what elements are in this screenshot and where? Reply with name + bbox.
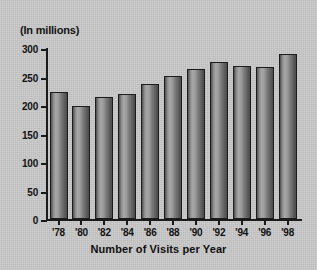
x-tick-label: '92 — [212, 227, 225, 238]
x-tick-mark — [241, 220, 243, 225]
x-axis-title: Number of Visits per Year — [0, 243, 317, 255]
bar-series: '78'80'82'84'86'88'90'92'94'96'98 — [48, 48, 300, 219]
y-tick-label: 0 — [33, 215, 38, 226]
y-tick-mark — [41, 220, 47, 222]
x-tick-label: '80 — [75, 227, 88, 238]
x-tick-label: '90 — [190, 227, 203, 238]
y-tick-mark — [41, 163, 47, 165]
x-tick-label: '98 — [281, 227, 294, 238]
y-tick-mark — [41, 49, 47, 51]
bar-y86 — [141, 84, 159, 219]
x-tick-mark — [172, 220, 174, 225]
bar-y80 — [72, 106, 90, 219]
x-tick-mark — [80, 220, 82, 225]
bar-y88 — [164, 76, 182, 219]
bar-y78 — [50, 92, 68, 219]
bar-y92 — [210, 62, 228, 219]
x-tick-label: '88 — [167, 227, 180, 238]
x-tick-label: '82 — [98, 227, 111, 238]
chart-page: (In millions) 050100150200250300 '78'80'… — [0, 0, 317, 270]
x-tick-mark — [218, 220, 220, 225]
bar-y98 — [279, 54, 297, 219]
x-tick-label: '86 — [144, 227, 157, 238]
x-tick-mark — [264, 220, 266, 225]
y-tick-mark — [41, 192, 47, 194]
y-tick-mark — [41, 78, 47, 80]
y-tick-mark — [41, 106, 47, 108]
x-tick-mark — [195, 220, 197, 225]
chart-unit-title: (In millions) — [20, 24, 79, 36]
y-tick-label: 200 — [22, 101, 38, 112]
x-tick-label: '94 — [235, 227, 248, 238]
bar-y96 — [256, 67, 274, 219]
x-tick-mark — [287, 220, 289, 225]
x-tick-label: '78 — [52, 227, 65, 238]
y-tick-label: 50 — [27, 187, 38, 198]
bar-y94 — [233, 66, 251, 219]
y-tick-mark — [41, 135, 47, 137]
y-tick-label: 100 — [22, 158, 38, 169]
x-tick-mark — [149, 220, 151, 225]
x-tick-label: '96 — [258, 227, 271, 238]
bar-y84 — [118, 94, 136, 219]
plot-area: 050100150200250300 '78'80'82'84'86'88'90… — [46, 48, 302, 221]
y-tick-label: 250 — [22, 73, 38, 84]
bar-y82 — [95, 97, 113, 219]
x-tick-mark — [103, 220, 105, 225]
y-tick-label: 300 — [22, 44, 38, 55]
x-tick-label: '84 — [121, 227, 134, 238]
y-tick-label: 150 — [22, 130, 38, 141]
x-tick-mark — [126, 220, 128, 225]
x-tick-mark — [58, 220, 60, 225]
bar-y90 — [187, 69, 205, 219]
